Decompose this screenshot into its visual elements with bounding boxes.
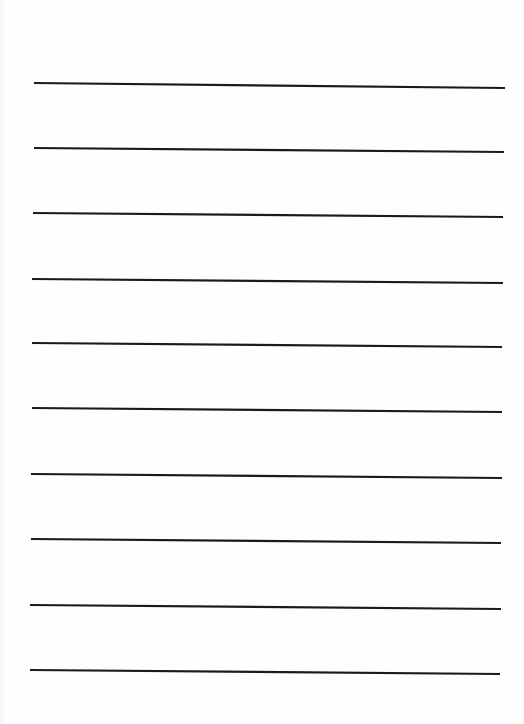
ruled-line-1 [34, 83, 505, 88]
ruled-line-6 [32, 408, 502, 412]
ruled-line-10 [30, 670, 500, 674]
ruled-line-5 [32, 343, 502, 347]
ruled-line-4 [32, 279, 503, 283]
ruled-lines [0, 0, 524, 724]
ruled-line-3 [33, 213, 503, 217]
ruled-line-8 [31, 539, 501, 543]
ruled-line-2 [34, 148, 504, 152]
lined-paper-page [0, 0, 524, 724]
ruled-line-9 [30, 605, 501, 609]
ruled-line-7 [31, 474, 502, 478]
